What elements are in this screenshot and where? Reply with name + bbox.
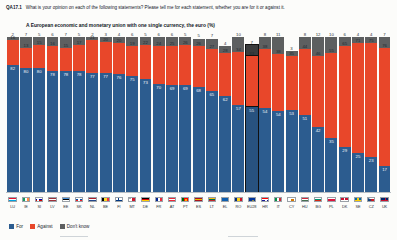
- bar-value-dontknow: 7: [211, 33, 213, 38]
- bar-value-for: 78: [77, 72, 82, 77]
- flag-cell-si: [33, 195, 46, 204]
- country-code-hr: HR: [258, 204, 271, 212]
- page-artifact-line-right: [228, 236, 258, 237]
- flag-icon-si: [35, 197, 43, 203]
- flag-icon-se: [354, 197, 362, 203]
- bar-value-for: 25: [356, 154, 361, 159]
- bar-value-for: 53: [289, 111, 294, 116]
- country-code-uk: UK: [378, 204, 391, 212]
- bar-segment-against: 46: [312, 56, 324, 127]
- bar-value-against: 76: [382, 43, 387, 48]
- bar-column-nl: 22177: [86, 37, 99, 192]
- legend-item-for: For: [9, 224, 23, 229]
- bar-value-against: 26: [196, 41, 201, 46]
- bar-value-for: 57: [236, 106, 241, 111]
- flag-cell-sk: [72, 195, 85, 204]
- bar-value-against: 15: [37, 40, 42, 45]
- question-header: QA17.1 What is your opinion on each of t…: [6, 5, 391, 12]
- bar-value-for: 65: [209, 92, 214, 97]
- country-code-el: EL: [219, 204, 232, 212]
- flag-icon-at: [168, 197, 176, 203]
- bar-value-dontknow: 5: [184, 32, 186, 37]
- country-flag-row: [6, 195, 391, 204]
- bar-segment-against: 25: [166, 46, 178, 85]
- flag-cell-cz: [365, 195, 378, 204]
- bar-segment-for: 80: [33, 68, 45, 192]
- bar-column-cy: 33553: [285, 37, 298, 192]
- flag-cell-nl: [86, 195, 99, 204]
- bar-value-for: 80: [37, 69, 42, 74]
- bar-segment-for: 69: [179, 85, 191, 192]
- bar-segment-for: 77: [86, 73, 98, 192]
- page-artifact-line-left: [60, 236, 88, 237]
- bar-segment-for: 75: [126, 76, 138, 192]
- flag-icon-fr: [155, 197, 163, 203]
- bar-segment-for: 35: [325, 138, 337, 192]
- country-code-dk: DK: [338, 204, 351, 212]
- bar-segment-for: 62: [219, 96, 231, 192]
- bar-segment-against: 21: [86, 40, 98, 73]
- x-axis-line: [6, 192, 391, 193]
- country-code-be: BE: [99, 204, 112, 212]
- bar-segment-for: 82: [7, 65, 19, 192]
- country-code-it: IT: [272, 204, 285, 212]
- bar-value-against: 44: [302, 44, 307, 49]
- flag-icon-eu28: [248, 197, 256, 203]
- flag-cell-se: [351, 195, 364, 204]
- bar-value-against: 28: [223, 48, 228, 53]
- bar-value-against: 34: [236, 47, 241, 52]
- bar-column-uk: 77617: [378, 37, 391, 192]
- bar-column-fi: 42076: [112, 37, 125, 192]
- bar-value-against: 55: [329, 48, 334, 53]
- bar-value-dontknow: 6: [343, 32, 345, 37]
- bar-value-for: 82: [10, 66, 15, 71]
- bar-value-against: 20: [103, 37, 108, 42]
- flag-cell-dk: [338, 195, 351, 204]
- bar-segment-against: 38: [272, 54, 284, 111]
- country-code-lv: LV: [46, 204, 59, 212]
- country-code-ee: EE: [59, 204, 72, 212]
- flag-cell-ie: [19, 195, 32, 204]
- bar-value-dontknow: 10: [329, 32, 334, 37]
- bar-segment-for: 73: [140, 79, 152, 192]
- bar-segment-for: 65: [206, 91, 218, 192]
- bar-segment-against: 13: [20, 48, 32, 68]
- bar-value-dontknow: 12: [316, 32, 321, 37]
- flag-icon-uk: [380, 197, 388, 203]
- flag-icon-cz: [367, 197, 375, 203]
- bar-segment-for: 25: [352, 153, 364, 192]
- bar-value-for: 51: [302, 116, 307, 121]
- bar-value-for: 69: [183, 86, 188, 91]
- flag-cell-pt: [179, 195, 192, 204]
- bar-segment-for: 23: [365, 157, 377, 192]
- flag-cell-de: [139, 195, 152, 204]
- country-code-row: LUIESILVEESKNLBEFIMTDEFRATPTESLTELROEU28…: [6, 204, 391, 212]
- flag-icon-pl: [327, 197, 335, 203]
- bar-value-for: 77: [90, 74, 95, 79]
- flag-icon-lv: [48, 197, 56, 203]
- bar-value-for: 69: [170, 86, 175, 91]
- bar-segment-against: 20: [113, 43, 125, 74]
- bar-value-against: 15: [63, 43, 68, 48]
- flag-cell-fr: [152, 195, 165, 204]
- flag-icon-hr: [261, 197, 269, 203]
- flag-icon-mt: [128, 197, 136, 203]
- chart-subtitle: A European economic and monetary union w…: [26, 23, 386, 28]
- bar-segment-against: 15: [33, 45, 45, 68]
- flag-cell-at: [165, 195, 178, 204]
- country-code-bg: BG: [311, 204, 324, 212]
- bar-value-dontknow: 5: [78, 32, 80, 37]
- flag-cell-be: [99, 195, 112, 204]
- bar-value-against: 65: [342, 41, 347, 46]
- bar-value-dontknow: 8: [304, 32, 306, 37]
- bar-column-de: 52273: [139, 37, 152, 192]
- bar-value-dontknow: 5: [197, 33, 199, 38]
- flag-cell-lu: [6, 195, 19, 204]
- bar-value-for: 73: [143, 80, 148, 85]
- bar-column-el: 42862: [219, 37, 232, 192]
- bar-segment-against: 34: [232, 52, 244, 104]
- flag-cell-cy: [285, 195, 298, 204]
- bar-value-against: 16: [50, 41, 55, 46]
- country-code-fi: FI: [112, 204, 125, 212]
- country-code-se: SE: [351, 204, 364, 212]
